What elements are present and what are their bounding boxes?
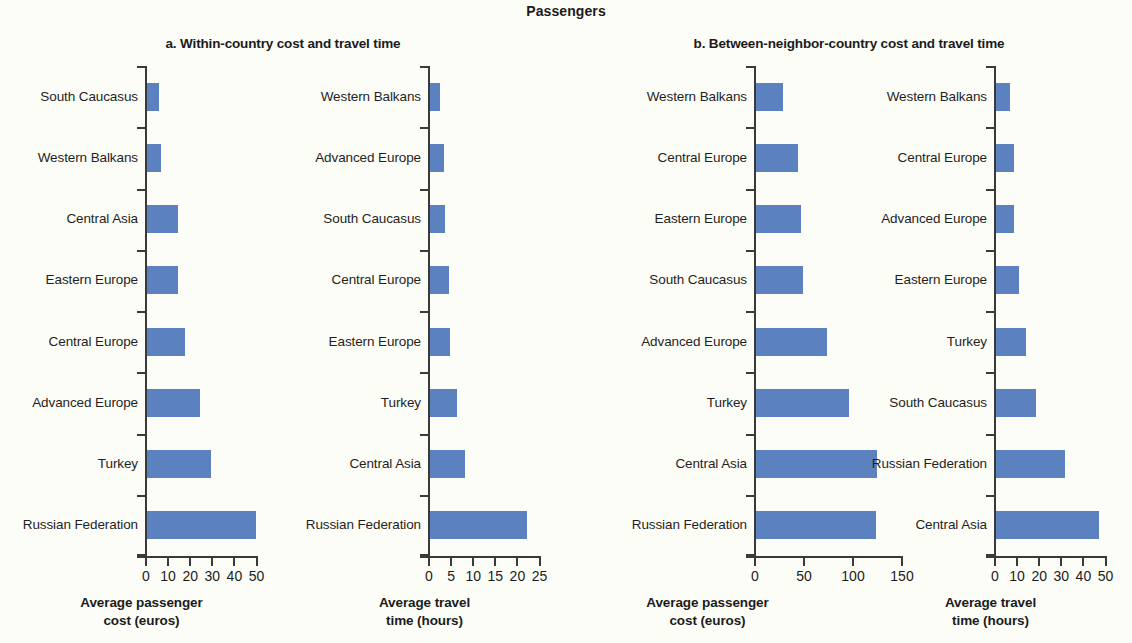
- y-axis-tick: [746, 127, 754, 129]
- x-axis-title-line2: time (hours): [849, 612, 1132, 630]
- bar-row: Advanced Europe: [849, 189, 1132, 250]
- x-axis-tick-label: 50: [784, 568, 824, 584]
- category-label: Central Asia: [287, 456, 421, 472]
- bar: [147, 83, 159, 111]
- bar: [147, 450, 211, 478]
- x-axis-tick: [539, 558, 541, 566]
- bar-row: Central Asia: [283, 434, 566, 495]
- category-label: Russian Federation: [570, 518, 747, 534]
- x-axis-tick: [1060, 558, 1062, 566]
- y-axis-tick: [137, 311, 145, 313]
- bar-row: Central Asia: [849, 495, 1132, 556]
- bar: [996, 205, 1014, 233]
- plot-area: Western BalkansCentral EuropeAdvanced Eu…: [849, 66, 1132, 556]
- bar-row: South Caucasus: [566, 250, 849, 311]
- category-label: Advanced Europe: [570, 334, 747, 350]
- y-axis-tick: [420, 434, 428, 436]
- bar: [430, 266, 449, 294]
- x-axis-tick: [754, 558, 756, 566]
- category-label: Advanced Europe: [853, 211, 987, 227]
- bar: [147, 144, 161, 172]
- x-axis-tick-label: 50: [1086, 568, 1126, 584]
- chart-between-country-cost: Western BalkansCentral EuropeEastern Eur…: [566, 66, 849, 643]
- x-axis-tick: [516, 558, 518, 566]
- x-axis-tick: [1016, 558, 1018, 566]
- bar-row: Central Europe: [283, 250, 566, 311]
- x-axis-line: [986, 556, 1107, 558]
- category-label: South Caucasus: [4, 89, 138, 105]
- y-axis-tick: [746, 250, 754, 252]
- x-axis-title-line1: Average passenger: [566, 594, 849, 612]
- category-label: Turkey: [4, 456, 138, 472]
- plot-area: South CaucasusWestern BalkansCentral Asi…: [0, 66, 283, 556]
- bar-row: Turkey: [0, 434, 283, 495]
- x-axis-tick-label: 50: [237, 568, 277, 584]
- category-label: Central Europe: [853, 150, 987, 166]
- plot-area: Western BalkansAdvanced EuropeSouth Cauc…: [283, 66, 566, 556]
- y-axis-tick: [137, 66, 145, 68]
- category-label: Turkey: [287, 395, 421, 411]
- bar: [756, 83, 783, 111]
- bar-row: Eastern Europe: [566, 189, 849, 250]
- category-label: Turkey: [570, 395, 747, 411]
- category-label: Russian Federation: [853, 456, 987, 472]
- bar-row: Turkey: [849, 311, 1132, 372]
- x-axis-title: Average traveltime (hours): [849, 594, 1132, 630]
- bar: [996, 328, 1026, 356]
- y-axis-tick: [746, 372, 754, 374]
- category-label: Western Balkans: [570, 89, 747, 105]
- category-label: Central Europe: [4, 334, 138, 350]
- bar: [147, 389, 200, 417]
- bar: [996, 83, 1010, 111]
- y-axis-tick: [986, 127, 994, 129]
- bar-row: Russian Federation: [849, 434, 1132, 495]
- y-axis-tick: [986, 495, 994, 497]
- y-axis-tick: [986, 311, 994, 313]
- bar-row: South Caucasus: [0, 66, 283, 127]
- bar: [756, 266, 803, 294]
- bar: [996, 450, 1065, 478]
- y-axis-tick: [137, 189, 145, 191]
- bar-row: Western Balkans: [0, 127, 283, 188]
- bar-row: Western Balkans: [849, 66, 1132, 127]
- bar-row: Central Asia: [0, 189, 283, 250]
- bar-row: Central Asia: [566, 434, 849, 495]
- x-axis-title-line1: Average travel: [283, 594, 566, 612]
- bar-row: Central Europe: [849, 127, 1132, 188]
- panel-a-title: a. Within-country cost and travel time: [0, 36, 566, 51]
- x-axis-tick: [189, 558, 191, 566]
- bar: [996, 144, 1014, 172]
- bar: [756, 389, 849, 417]
- y-axis-tick: [986, 434, 994, 436]
- y-axis-tick: [746, 434, 754, 436]
- x-axis-tick: [450, 558, 452, 566]
- x-axis-tick: [256, 558, 258, 566]
- y-axis-tick: [986, 189, 994, 191]
- bar: [996, 389, 1036, 417]
- y-axis-tick: [137, 495, 145, 497]
- category-label: Western Balkans: [4, 150, 138, 166]
- bar: [756, 144, 798, 172]
- category-label: Central Asia: [4, 211, 138, 227]
- category-label: Eastern Europe: [853, 273, 987, 289]
- bar-row: Advanced Europe: [0, 372, 283, 433]
- bar: [430, 511, 527, 539]
- bar-row: Turkey: [566, 372, 849, 433]
- bar: [756, 205, 801, 233]
- bar-row: South Caucasus: [849, 372, 1132, 433]
- panel-within-country: a. Within-country cost and travel time S…: [0, 36, 566, 643]
- y-axis-tick: [746, 495, 754, 497]
- category-label: South Caucasus: [853, 395, 987, 411]
- y-axis-tick: [420, 372, 428, 374]
- category-label: Western Balkans: [853, 89, 987, 105]
- plot-area: Western BalkansCentral EuropeEastern Eur…: [566, 66, 849, 556]
- bar: [756, 328, 827, 356]
- bar: [147, 266, 178, 294]
- x-axis-line: [137, 556, 258, 558]
- y-axis-tick: [137, 434, 145, 436]
- x-axis-tick-label: 25: [520, 568, 560, 584]
- bar: [996, 266, 1019, 294]
- y-axis-tick: [420, 127, 428, 129]
- category-label: Central Asia: [570, 456, 747, 472]
- x-axis-title: Average traveltime (hours): [283, 594, 566, 630]
